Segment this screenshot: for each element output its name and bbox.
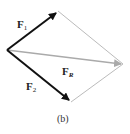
resultant-vector-fr xyxy=(7,50,121,64)
label-fr: FR xyxy=(62,65,74,79)
label-f1: F1 xyxy=(17,18,28,32)
construction-line-top xyxy=(58,11,123,64)
vector-diagram: F1 FR F2 (b) xyxy=(0,0,130,134)
vector-f2 xyxy=(7,50,69,100)
label-f2: F2 xyxy=(26,80,37,94)
vector-f1 xyxy=(7,13,56,50)
caption: (b) xyxy=(57,113,69,125)
construction-line-bottom xyxy=(71,64,123,102)
